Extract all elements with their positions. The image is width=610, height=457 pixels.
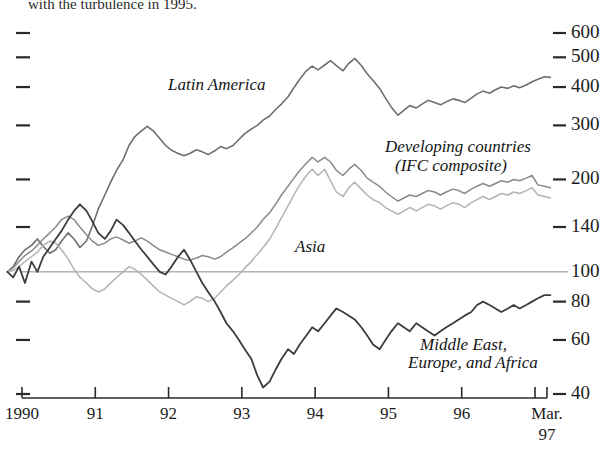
y-axis-label-100: 100 <box>571 261 600 280</box>
series-annotation-4: Middle East, <box>420 336 507 354</box>
series-annotation-2: (IFC composite) <box>395 157 507 175</box>
y-axis-label-200: 200 <box>571 168 600 187</box>
y-axis-label-60: 60 <box>571 329 590 348</box>
x-axis-label-91: 91 <box>55 404 135 423</box>
x-axis-label-1990: 1990 <box>0 404 62 423</box>
x-axis-label-97: 97 <box>507 425 587 444</box>
y-axis-label-40: 40 <box>571 383 590 402</box>
series-annotation-0: Latin America <box>168 76 265 94</box>
x-axis-label-93: 93 <box>202 404 282 423</box>
y-axis-label-300: 300 <box>571 114 600 133</box>
x-axis-label-95: 95 <box>348 404 428 423</box>
y-axis-label-600: 600 <box>571 22 600 41</box>
series-annotation-1: Developing countries <box>385 138 531 156</box>
y-axis-label-400: 400 <box>571 76 600 95</box>
series-annotation-3: Asia <box>295 238 325 256</box>
series-annotation-5: Europe, and Africa <box>408 354 538 372</box>
x-axis-label-94: 94 <box>275 404 355 423</box>
x-axis-label-92: 92 <box>129 404 209 423</box>
y-axis-label-80: 80 <box>571 291 590 310</box>
x-axis-label-mar: Mar. <box>507 404 587 423</box>
chart-canvas <box>0 0 610 457</box>
y-axis-label-140: 140 <box>571 216 600 235</box>
x-axis-label-96: 96 <box>422 404 502 423</box>
x-axis-label-Mar97: Mar.97 <box>507 404 587 444</box>
y-axis-label-500: 500 <box>571 46 600 65</box>
